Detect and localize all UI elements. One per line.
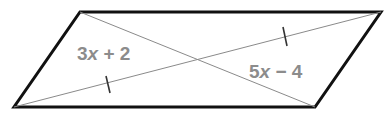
label-segment-right: 5x − 4 <box>249 61 303 82</box>
parallelogram-diagram: 3x + 2 5x − 4 <box>0 0 391 120</box>
tick-mark-lower <box>106 76 110 93</box>
label-segment-left: 3x + 2 <box>77 43 130 64</box>
